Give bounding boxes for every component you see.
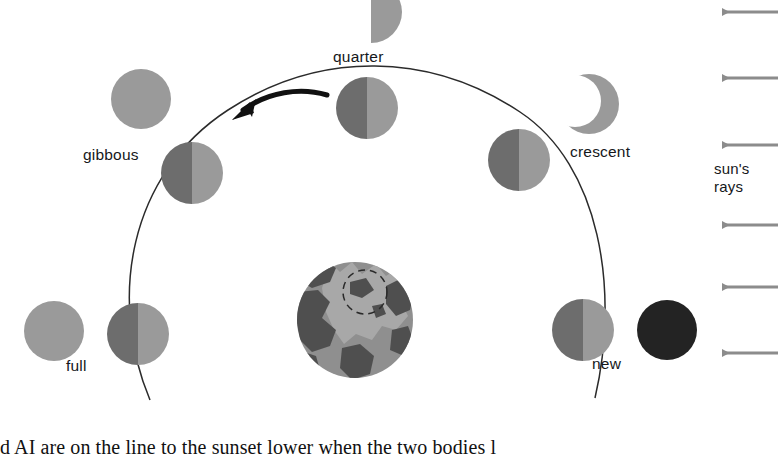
orbit-direction-arrow bbox=[232, 91, 327, 120]
diagram-canvas bbox=[0, 0, 778, 458]
phase-label-quarter: quarter bbox=[333, 48, 384, 66]
phase-icon-quarter bbox=[340, 0, 402, 43]
figure-caption: d AI are on the line to the sunset lower… bbox=[0, 436, 778, 458]
phase-icon-full bbox=[24, 301, 84, 361]
suns-rays-line-2: rays bbox=[714, 178, 750, 196]
orbit-moon-quarter bbox=[336, 77, 398, 139]
suns-rays-label: sun's rays bbox=[714, 160, 750, 197]
orbit-moon-full bbox=[107, 303, 169, 365]
phase-icon-gibbous bbox=[111, 69, 171, 129]
phase-label-full: full bbox=[66, 357, 87, 375]
phase-label-new: new bbox=[592, 355, 621, 373]
phase-label-gibbous: gibbous bbox=[83, 146, 139, 164]
orbit-moon-gibbous bbox=[161, 142, 223, 204]
phase-label-crescent: crescent bbox=[570, 143, 630, 161]
suns-rays-line-1: sun's bbox=[714, 160, 750, 178]
phase-icon-new bbox=[637, 300, 697, 360]
earth bbox=[294, 258, 414, 380]
phase-icon-crescent bbox=[540, 60, 650, 155]
orbit-moon-new bbox=[552, 299, 614, 361]
moon-phases-figure: quarter gibbous crescent full new sun's … bbox=[0, 0, 778, 458]
